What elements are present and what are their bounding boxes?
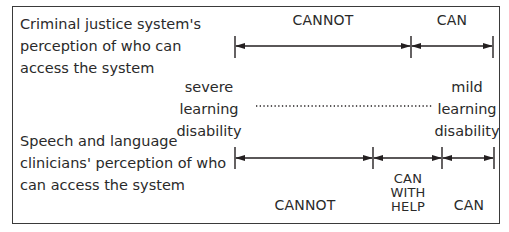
arrow-lines: [0, 0, 509, 232]
